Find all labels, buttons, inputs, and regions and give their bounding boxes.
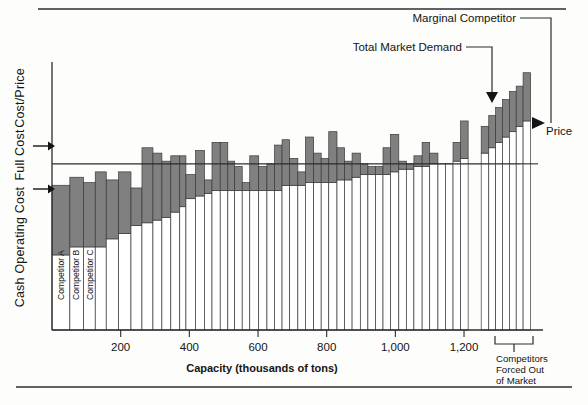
- bar-full-cost-segment: [375, 167, 383, 175]
- bar-full-cost-segment: [162, 161, 171, 217]
- bar-full-cost-segment: [461, 121, 469, 159]
- bar-full-cost-segment: [453, 142, 461, 161]
- bar-cash-operating-cost-segment: [430, 164, 438, 330]
- bar-full-cost-segment: [298, 172, 306, 185]
- bar-full-cost-segment: [52, 185, 70, 255]
- bar-full-cost-segment: [305, 137, 313, 183]
- annotation-price: Price: [546, 125, 572, 137]
- cost-curve-chart: Cost/Price Full Cost Cash Operating Cost…: [0, 0, 588, 405]
- bar-full-cost-segment: [153, 153, 162, 220]
- bar-cash-operating-cost-segment: [337, 180, 345, 330]
- x-tick-label: 600: [248, 341, 267, 353]
- bar-full-cost-segment: [282, 140, 290, 186]
- bar-cash-operating-cost-segment: [345, 180, 353, 330]
- bar-cash-operating-cost-segment: [445, 164, 453, 330]
- forced-out-bar-cash-operating-cost-segment: [481, 153, 489, 330]
- bar-cash-operating-cost-segment: [453, 161, 461, 330]
- bar-cash-operating-cost-segment: [153, 220, 162, 330]
- bar-cash-operating-cost-segment: [329, 183, 337, 330]
- y-label-cash-operating-cost: Cash Operating Cost: [13, 186, 27, 307]
- y-label-cost-price: Cost/Price: [13, 68, 27, 128]
- forced-out-bar-full-cost-segment: [481, 126, 489, 153]
- bar-full-cost-segment: [267, 164, 275, 191]
- bar-cash-operating-cost-segment: [414, 167, 422, 330]
- bar-full-cost-segment: [321, 158, 329, 182]
- bar-full-cost-segment: [131, 188, 142, 226]
- bar-full-cost-segment: [212, 142, 220, 190]
- bar-cash-operating-cost-segment: [406, 169, 414, 330]
- bar-full-cost-segment: [430, 153, 438, 164]
- forced-out-bar-cash-operating-cost-segment: [496, 142, 503, 330]
- bar-cash-operating-cost-segment: [352, 177, 360, 330]
- bar-full-cost-segment: [259, 167, 267, 191]
- bar-cash-operating-cost-segment: [212, 191, 220, 330]
- forced-out-bar-full-cost-segment: [502, 100, 509, 138]
- bar-full-cost-segment: [70, 177, 84, 247]
- bar-full-cost-segment: [368, 167, 376, 175]
- y-label-full-cost: Full Cost: [13, 129, 27, 180]
- x-tick-label: 1,200: [450, 341, 479, 353]
- bar-cash-operating-cost-segment: [321, 183, 329, 330]
- bar-cash-operating-cost-segment: [204, 193, 212, 330]
- bar-cash-operating-cost-segment: [95, 247, 106, 330]
- bar-cash-operating-cost-segment: [290, 185, 298, 330]
- bar-cash-operating-cost-segment: [275, 191, 283, 330]
- bar-cash-operating-cost-segment: [171, 212, 180, 330]
- bar-cash-operating-cost-segment: [142, 223, 153, 330]
- bar-full-cost-segment: [250, 156, 259, 191]
- forced-out-bar-cash-operating-cost-segment: [489, 148, 496, 330]
- bar-full-cost-segment: [119, 172, 131, 234]
- annotation-marginal-competitor: Marginal Competitor: [412, 12, 516, 24]
- bar-full-cost-segment: [406, 164, 414, 169]
- forced-out-bar-full-cost-segment: [516, 86, 523, 126]
- x-tick-label: 1,000: [381, 341, 410, 353]
- bar-full-cost-segment: [383, 148, 391, 175]
- bar-cash-operating-cost-segment: [220, 191, 228, 330]
- bar-cash-operating-cost-segment: [186, 199, 196, 330]
- x-tick-label: 400: [180, 341, 199, 353]
- bar-full-cost-segment: [220, 142, 228, 190]
- forced-out-bar-cash-operating-cost-segment: [523, 121, 531, 330]
- bar-cash-operating-cost-segment: [360, 175, 368, 330]
- x-tick-label: 800: [317, 341, 336, 353]
- bar-cash-operating-cost-segment: [180, 207, 186, 330]
- chart-figure: Cost/Price Full Cost Cash Operating Cost…: [0, 0, 588, 405]
- bar-full-cost-segment: [84, 183, 96, 247]
- bar-full-cost-segment: [142, 148, 153, 223]
- forced-out-label-line2: Forced Out: [496, 364, 544, 375]
- bar-full-cost-segment: [314, 153, 322, 182]
- competitor-a-label: Competitor A: [56, 250, 66, 300]
- annotation-total-market-demand: Total Market Demand: [353, 41, 462, 53]
- bar-cash-operating-cost-segment: [131, 225, 142, 330]
- bar-cash-operating-cost-segment: [314, 183, 322, 330]
- forced-out-bar-full-cost-segment: [509, 91, 516, 131]
- competitor-b-label: Competitor B: [71, 250, 81, 300]
- x-tick-label: 200: [111, 341, 130, 353]
- bar-cash-operating-cost-segment: [267, 191, 275, 330]
- bar-cash-operating-cost-segment: [196, 196, 205, 330]
- bar-cash-operating-cost-segment: [228, 191, 235, 330]
- bar-full-cost-segment: [106, 180, 118, 239]
- bar-full-cost-segment: [204, 180, 212, 193]
- bar-cash-operating-cost-segment: [106, 239, 118, 330]
- bar-cash-operating-cost-segment: [298, 185, 306, 330]
- bar-full-cost-segment: [399, 161, 407, 169]
- x-axis-title: Capacity (thousands of tons): [186, 362, 338, 374]
- bar-cash-operating-cost-segment: [391, 172, 399, 330]
- bar-full-cost-segment: [228, 161, 235, 190]
- bar-cash-operating-cost-segment: [368, 175, 376, 330]
- forced-out-label-line3: of Market: [496, 375, 536, 386]
- bar-full-cost-segment: [95, 172, 106, 247]
- forced-out-bar-cash-operating-cost-segment: [516, 126, 523, 330]
- bar-full-cost-segment: [186, 175, 196, 199]
- bar-cash-operating-cost-segment: [375, 175, 383, 330]
- forced-out-bar-cash-operating-cost-segment: [502, 137, 509, 330]
- bar-cash-operating-cost-segment: [235, 191, 243, 330]
- bar-cash-operating-cost-segment: [438, 164, 446, 330]
- bar-cash-operating-cost-segment: [242, 191, 250, 330]
- bar-cash-operating-cost-segment: [119, 234, 131, 330]
- bar-cash-operating-cost-segment: [282, 185, 290, 330]
- bar-full-cost-segment: [414, 156, 422, 167]
- forced-out-bar-full-cost-segment: [489, 116, 496, 148]
- forced-out-bar-full-cost-segment: [523, 73, 531, 121]
